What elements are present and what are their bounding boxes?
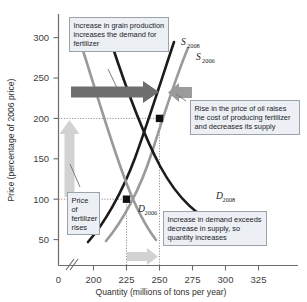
x-axis-title: Quantity (millions of tons per year) [96, 287, 227, 297]
supply-2006-label: S [196, 51, 201, 62]
supply-2008-label-sub: 2008 [187, 42, 200, 49]
supply-decrease-arrow [168, 83, 192, 102]
x-tick-label-0: 0 [56, 274, 61, 285]
supply-2006-label-sub: 2006 [202, 57, 215, 64]
axis-break-icon [66, 259, 78, 270]
y-tick-label-50: 50 [38, 234, 49, 245]
callout-demand-increase: Increase in grain production increases t… [69, 17, 169, 52]
x-tick-label-250: 250 [152, 274, 168, 285]
new-equilibrium-point [156, 115, 163, 122]
callout-supply-decrease: Rise in the price of oil raises the cost… [190, 100, 300, 135]
y-tick-label-300: 300 [33, 32, 49, 43]
demand-2006-label-sub: 2006 [145, 209, 158, 216]
x-tick-label-275: 275 [185, 274, 201, 285]
price-rise-arrow [60, 120, 80, 197]
supply-demand-chart: 50 100 150 200 250 300 0 200 225 250 275… [0, 0, 307, 302]
y-axis-ticks: 50 100 150 200 250 300 [33, 32, 58, 245]
quantity-increase-arrow [127, 248, 158, 265]
y-axis-title: Price (percentage of 2006 price) [6, 78, 16, 201]
callout-quantity-increases: Increase in demand exceeds decrease in s… [163, 211, 267, 246]
supply-curve-2008 [88, 42, 174, 242]
x-tick-label-225: 225 [119, 274, 135, 285]
x-tick-label-300: 300 [218, 274, 234, 285]
y-tick-label-150: 150 [33, 153, 49, 164]
callout-price-rises: Price of fertilizer rises [67, 192, 100, 235]
y-tick-label-200: 200 [33, 113, 49, 124]
demand-2008-label-sub: 2008 [223, 196, 236, 203]
x-tick-label-200: 200 [86, 274, 102, 285]
y-tick-label-250: 250 [33, 72, 49, 83]
supply-2008-label: S [181, 36, 186, 47]
initial-equilibrium-point [123, 196, 130, 203]
x-tick-label-325: 325 [251, 274, 267, 285]
x-axis-ticks: 0 200 225 250 275 300 325 [56, 266, 267, 286]
y-tick-label-100: 100 [33, 194, 49, 205]
